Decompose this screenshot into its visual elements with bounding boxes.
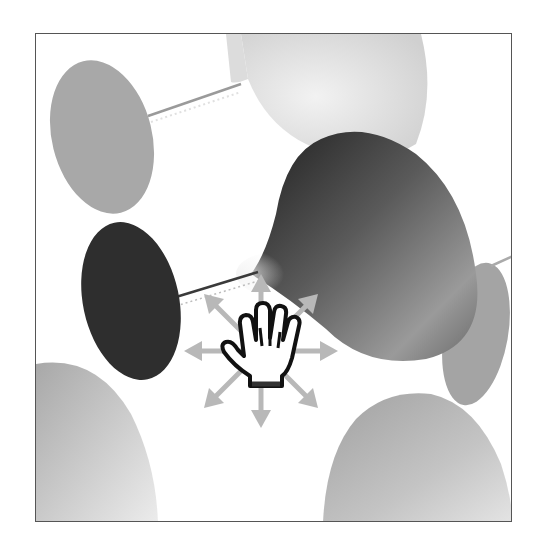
bottom-left-cone [36,363,158,522]
right-stem [491,256,512,266]
bottom-right-cone [323,393,512,522]
hand-icon [222,303,299,386]
3d-viewport[interactable] [35,33,512,522]
upper-left-disc [36,49,169,225]
pan-cursor [176,266,346,436]
upper-stem [148,84,241,122]
